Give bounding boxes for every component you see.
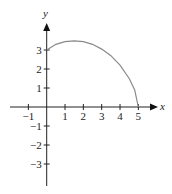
curve-line [47,41,139,107]
y-tick-label: 2 [36,63,42,75]
x-tick-label: 5 [136,110,142,122]
y-tick-label: −2 [30,139,42,151]
y-axis-label: y [42,7,48,19]
x-axis-label: x [159,100,165,112]
y-tick-label: 1 [36,82,42,94]
chart-svg: x y −112345 321−1−2−3 [0,0,172,194]
x-tick-label: 1 [62,110,68,122]
y-tick-label: 3 [36,44,42,56]
x-tick-label: 2 [81,110,87,122]
x-tick-label: 3 [99,110,105,122]
y-tick-label: −3 [30,158,42,170]
x-axis-arrow-icon [150,104,158,111]
x-tick-label: 4 [117,110,123,122]
chart: x y −112345 321−1−2−3 [0,0,172,194]
y-axis-arrow-icon [43,23,50,31]
y-tick-label: −1 [30,120,42,132]
